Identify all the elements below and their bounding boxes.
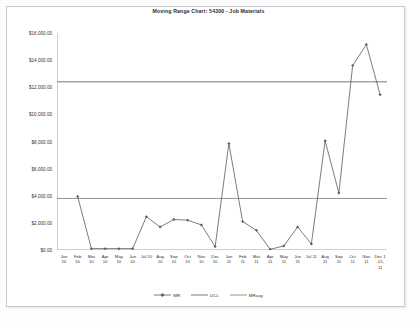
series-marker-mr (324, 140, 327, 143)
legend-item-ucl[interactable]: UCL (191, 292, 219, 298)
series-marker-mr (131, 247, 134, 250)
series-marker-mr (338, 192, 341, 195)
series-marker-mr (379, 93, 382, 96)
plot-area: $0.00$2,000.00$4,000.00$6,000.00$8,000.0… (57, 33, 387, 250)
y-axis-tick-label: $16,000.00 (29, 31, 52, 36)
x-axis-tick-label: Sep10 (170, 254, 178, 265)
legend-key-mravg-icon (230, 292, 247, 298)
x-axis-tick-label: Sep11 (335, 254, 343, 265)
x-axis-tick-label: Aug10 (156, 254, 164, 265)
chart-page: Moving Range Chart: 54300 - Job Material… (0, 0, 417, 321)
x-axis-tick-label: Jan11 (225, 254, 232, 265)
legend-key-ucl-icon (191, 292, 208, 298)
series-marker-mr (76, 195, 79, 198)
x-axis-tick-label: May10 (115, 254, 123, 265)
x-axis-tick-label: Oct11 (349, 254, 356, 265)
series-marker-mr (118, 247, 121, 250)
x-axis-tick-label: May11 (280, 254, 288, 265)
x-axis-tick-label: Feb11 (239, 254, 246, 265)
x-axis-tick-label: Jun10 (129, 254, 136, 265)
x-axis-tick-label: Nov11 (363, 254, 371, 265)
x-axis-tick-label: Jul 10 (141, 254, 152, 259)
y-axis-tick-label: $12,000.00 (29, 85, 52, 90)
chart-title: Moving Range Chart: 54300 - Job Material… (0, 8, 417, 14)
y-axis-tick-label: $6,000.00 (32, 166, 52, 171)
x-axis-tick-label: Mar11 (253, 254, 260, 265)
y-axis-tick-label: $2,000.00 (32, 220, 52, 225)
series-marker-mr (104, 247, 107, 250)
x-axis-tick-label: Dec10 (211, 254, 219, 265)
x-axis-tick-label: Aug11 (321, 254, 329, 265)
x-axis-tick-label: Oct10 (184, 254, 191, 265)
legend-label: MR (173, 293, 180, 298)
x-axis-tick-label: Feb10 (74, 254, 81, 265)
x-axis-tick-label: Dec 1-15,11 (375, 254, 386, 270)
x-axis-tick-label: Apr11 (267, 254, 274, 265)
y-axis-tick-label: $0.00 (41, 248, 53, 253)
y-axis-tick-label: $4,000.00 (32, 193, 52, 198)
x-axis-tick-label: Jun11 (294, 254, 301, 265)
legend-item-mr[interactable]: MR (154, 292, 180, 298)
chart-legend: MRUCLMRavg (0, 292, 417, 298)
legend-label: UCL (210, 293, 219, 298)
x-axis-tick-label: Mar10 (88, 254, 95, 265)
series-marker-mr (186, 219, 189, 222)
y-axis-tick-label: $14,000.00 (29, 58, 52, 63)
y-axis-tick-label: $8,000.00 (32, 139, 52, 144)
x-axis-tick-label: Nov10 (198, 254, 206, 265)
series-marker-mr (228, 142, 231, 145)
chart-canvas (57, 33, 387, 250)
x-axis-tick-label: Jul 11 (306, 254, 317, 259)
legend-item-mravg[interactable]: MRavg (230, 292, 263, 298)
x-axis-tick-label: Apr10 (102, 254, 109, 265)
y-axis-tick-label: $10,000.00 (29, 112, 52, 117)
legend-key-mr-icon (154, 292, 171, 298)
legend-label: MRavg (249, 293, 263, 298)
series-marker-mr (90, 247, 93, 250)
x-axis-tick-label: Jan10 (60, 254, 67, 265)
series-line-mr (78, 45, 381, 250)
